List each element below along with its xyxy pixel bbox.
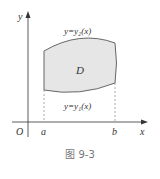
y-axis-arrow-icon — [26, 11, 31, 18]
region-diagram: y x O a b D y=y₂(x) y=y₁(x) 图 9-3 — [0, 0, 160, 179]
lower-curve-label: y=y₁(x) — [63, 101, 91, 111]
y-axis-label: y — [17, 11, 23, 22]
x-axis-label: x — [139, 126, 145, 137]
upper-curve-label: y=y₂(x) — [63, 26, 91, 36]
x-axis-arrow-icon — [141, 120, 148, 125]
tick-b-label: b — [112, 126, 117, 137]
figure-caption: 图 9-3 — [65, 149, 95, 160]
region-label: D — [75, 64, 84, 76]
tick-a-label: a — [41, 126, 46, 137]
origin-label: O — [16, 126, 23, 137]
